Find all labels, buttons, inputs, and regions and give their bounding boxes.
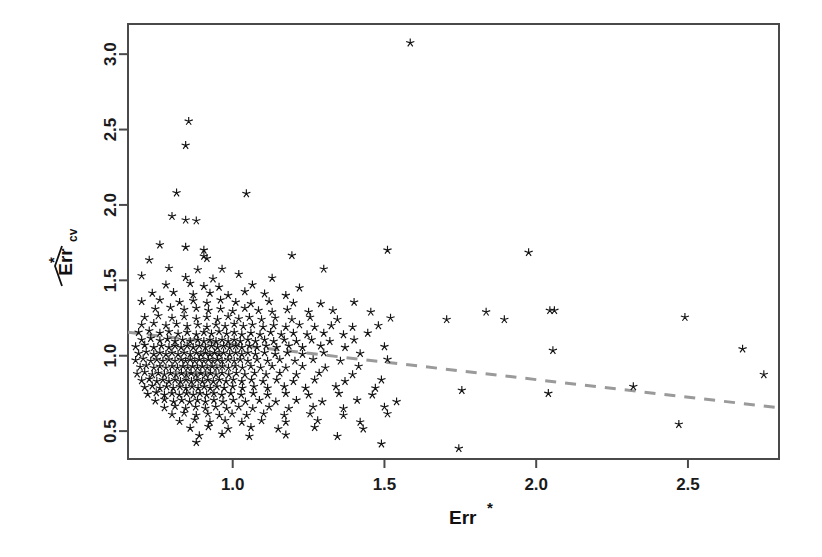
data-point bbox=[380, 342, 388, 350]
regression-trend-line bbox=[128, 332, 779, 407]
y-tick-label: 2.5 bbox=[101, 118, 120, 142]
data-point bbox=[255, 396, 263, 404]
data-point bbox=[132, 356, 140, 364]
data-point bbox=[356, 349, 364, 357]
data-point bbox=[171, 342, 179, 350]
data-point bbox=[350, 298, 358, 306]
trend-line-group bbox=[128, 332, 779, 407]
x-tick-label: 1.5 bbox=[373, 475, 397, 494]
data-point bbox=[156, 362, 164, 370]
data-point bbox=[283, 348, 291, 356]
data-point bbox=[177, 355, 185, 363]
data-point bbox=[248, 321, 256, 329]
data-point bbox=[238, 363, 246, 371]
data-point bbox=[245, 432, 253, 440]
data-point bbox=[250, 382, 258, 390]
data-point bbox=[168, 212, 176, 220]
data-point bbox=[320, 265, 328, 273]
data-point bbox=[329, 306, 337, 314]
data-point bbox=[209, 275, 217, 283]
data-point bbox=[235, 403, 243, 411]
data-point bbox=[189, 362, 197, 370]
data-point bbox=[339, 404, 347, 412]
data-point bbox=[304, 308, 312, 316]
data-point bbox=[180, 305, 188, 313]
data-point bbox=[174, 330, 182, 338]
data-point bbox=[204, 376, 212, 384]
data-point bbox=[176, 377, 184, 385]
data-point bbox=[144, 390, 152, 398]
data-point bbox=[145, 256, 153, 264]
x-axis-title-base: Err bbox=[449, 507, 477, 528]
data-point bbox=[186, 424, 194, 432]
data-point bbox=[289, 299, 297, 307]
data-point bbox=[500, 315, 508, 323]
data-point bbox=[311, 423, 319, 431]
y-tick-label: 3.0 bbox=[101, 42, 120, 66]
data-point bbox=[165, 264, 173, 272]
data-point bbox=[242, 189, 250, 197]
data-point bbox=[292, 337, 300, 345]
data-point bbox=[162, 382, 170, 390]
data-point bbox=[169, 397, 177, 405]
data-point bbox=[241, 304, 249, 312]
data-point bbox=[285, 404, 293, 412]
data-point bbox=[182, 273, 190, 281]
data-point bbox=[272, 397, 280, 405]
data-point bbox=[455, 444, 463, 452]
data-point bbox=[458, 386, 466, 394]
x-axis-ticks bbox=[233, 459, 688, 468]
data-point bbox=[210, 389, 218, 397]
data-point bbox=[215, 327, 223, 335]
data-point bbox=[333, 315, 341, 323]
data-point bbox=[336, 357, 344, 365]
data-point bbox=[244, 336, 252, 344]
data-point bbox=[145, 375, 153, 383]
data-point bbox=[318, 397, 326, 405]
data-point bbox=[280, 382, 288, 390]
data-point bbox=[247, 423, 255, 431]
data-point bbox=[333, 432, 341, 440]
data-point bbox=[254, 306, 262, 314]
data-point bbox=[213, 315, 221, 323]
data-point bbox=[180, 348, 188, 356]
data-point bbox=[218, 265, 226, 273]
data-point bbox=[247, 299, 255, 307]
data-point bbox=[317, 299, 325, 307]
data-point bbox=[237, 391, 245, 399]
data-point bbox=[165, 327, 173, 335]
data-point bbox=[268, 274, 276, 282]
data-point bbox=[248, 281, 256, 289]
data-point bbox=[203, 313, 211, 321]
data-point bbox=[298, 350, 306, 358]
data-point bbox=[138, 376, 146, 384]
data-point bbox=[314, 416, 322, 424]
data-point bbox=[386, 314, 394, 322]
data-point bbox=[274, 425, 282, 433]
data-point bbox=[156, 296, 164, 304]
data-point bbox=[259, 323, 267, 331]
data-point bbox=[194, 265, 202, 273]
data-point bbox=[215, 350, 223, 358]
data-point bbox=[264, 391, 272, 399]
data-point bbox=[207, 330, 215, 338]
data-point bbox=[264, 357, 272, 365]
y-tick-label: 1.5 bbox=[101, 269, 120, 293]
data-point bbox=[251, 350, 259, 358]
data-point bbox=[257, 416, 265, 424]
data-point bbox=[238, 377, 246, 385]
data-point bbox=[229, 396, 237, 404]
data-point bbox=[187, 377, 195, 385]
data-point bbox=[145, 327, 153, 335]
data-point bbox=[182, 376, 190, 384]
data-point bbox=[257, 363, 265, 371]
data-point bbox=[220, 384, 228, 392]
data-point bbox=[204, 409, 212, 417]
data-point bbox=[320, 329, 328, 337]
data-point bbox=[245, 313, 253, 321]
data-point bbox=[282, 418, 290, 426]
data-point bbox=[265, 403, 273, 411]
data-point bbox=[221, 416, 229, 424]
y-tick-label: 1.0 bbox=[101, 344, 120, 368]
data-point bbox=[200, 357, 208, 365]
